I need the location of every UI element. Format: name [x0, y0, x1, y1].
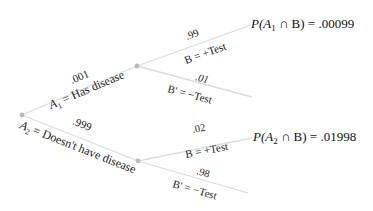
result-a1-prefix: P(A [250, 16, 271, 31]
a1-b-prime-event-label: B' = −Test [166, 82, 213, 105]
result-a1-and-b: P(A1 ∩ B) = .00099 [250, 16, 354, 33]
probability-tree-diagram: .001 A1 = Has disease .999 A2 = Doesn't … [0, 0, 373, 211]
a2-b-prime-probability: .98 [195, 165, 211, 179]
a1-event-text: = Has disease [57, 67, 126, 107]
result-a2-and-b: P(A2 ∩ B) = .01998 [252, 129, 356, 146]
result-a2-prefix: P(A [252, 129, 273, 144]
a1-node [135, 64, 140, 69]
a2-b-event-label: B = +Test [184, 140, 229, 160]
a2-probability: .999 [71, 115, 94, 133]
a1-b-probability: .99 [184, 27, 200, 42]
a1-b-prime-probability: .01 [194, 71, 210, 85]
result-a1-value: ∩ B) = .00099 [276, 16, 354, 31]
root-node [20, 113, 25, 118]
a1-b-event-label: B = +Test [183, 40, 228, 66]
a2-b-prime-event-label: B' = −Test [171, 177, 218, 201]
a2-b-probability: .02 [191, 122, 206, 135]
result-a2-value: ∩ B) = .01998 [278, 129, 356, 144]
